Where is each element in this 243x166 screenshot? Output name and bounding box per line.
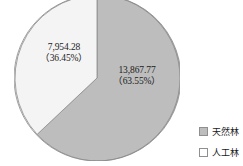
pie-chart-figure: 7,954.28 （36.45%） 13,867.77 （63.55%） 天然林…	[0, 0, 243, 166]
legend-label-natural: 天然林	[212, 125, 239, 138]
pie-label-plantation-percent: （36.45%）	[31, 53, 97, 64]
pie-label-natural: 13,867.77 （63.55%）	[104, 65, 170, 86]
chart-legend: 天然林 人工林	[199, 121, 243, 163]
legend-label-plantation: 人工林	[212, 146, 239, 159]
legend-swatch-icon-natural	[199, 127, 208, 136]
pie-label-plantation: 7,954.28 （36.45%）	[31, 42, 97, 63]
legend-item-natural[interactable]: 天然林	[199, 121, 243, 142]
legend-swatch-icon-plantation	[199, 148, 208, 157]
pie-label-plantation-value: 7,954.28	[31, 42, 97, 53]
pie-label-natural-percent: （63.55%）	[104, 76, 170, 87]
legend-item-plantation[interactable]: 人工林	[199, 142, 243, 163]
pie-label-natural-value: 13,867.77	[104, 65, 170, 76]
